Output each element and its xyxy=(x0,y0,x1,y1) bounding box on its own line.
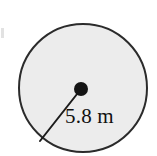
center-dot xyxy=(74,82,88,96)
geometry-figure: 5.8 m xyxy=(0,0,157,156)
circle-diagram-canvas xyxy=(0,0,157,156)
scan-artifact xyxy=(1,28,4,38)
radius-label: 5.8 m xyxy=(65,106,114,127)
